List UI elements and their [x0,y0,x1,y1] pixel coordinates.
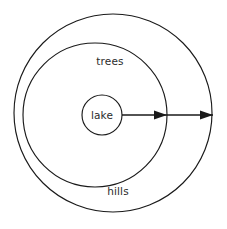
diagram-canvas: trees lake hills [0,0,227,229]
zone-label-hills: hills [107,185,129,197]
arrowhead-trees-boundary-icon [154,111,167,120]
arrowhead-hills-boundary-icon [200,111,213,120]
zone-label-lake: lake [91,109,113,121]
concentric-zones-diagram: trees lake hills [0,0,227,229]
zone-label-trees: trees [96,55,123,67]
